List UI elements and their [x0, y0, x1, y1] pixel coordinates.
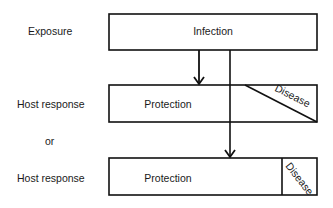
infection-box: Infection	[109, 14, 317, 50]
or-label: or	[45, 135, 55, 147]
disease-label-2: Disease	[283, 160, 316, 197]
infection-outcome-diagram: Exposure Host response or Host response …	[0, 0, 333, 208]
arrow-to-host-response-1	[194, 50, 204, 84]
host-response-label-1: Host response	[17, 98, 85, 110]
host-response-box-2: Protection Disease	[109, 158, 317, 197]
protection-label-2: Protection	[144, 172, 191, 184]
infection-label: Infection	[193, 25, 233, 37]
host-response-box-1: Protection Disease	[109, 81, 317, 122]
exposure-label: Exposure	[28, 25, 73, 37]
arrow-to-host-response-2	[225, 50, 235, 157]
protection-label-1: Protection	[144, 98, 191, 110]
host-response-label-2: Host response	[17, 172, 85, 184]
